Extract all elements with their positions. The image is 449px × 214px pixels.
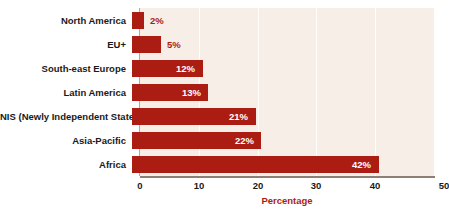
bar-track: 5% [132, 32, 448, 56]
bar-value-label: 22% [235, 135, 254, 146]
x-tick-10: 10 [194, 180, 205, 191]
table-row: EU+ 5% [0, 32, 448, 56]
category-label: EU+ [0, 39, 132, 50]
bar-africa[interactable] [132, 156, 379, 173]
category-label: Africa [0, 159, 132, 170]
bar-value-label: 12% [176, 63, 195, 74]
bar-track: 2% [132, 8, 448, 32]
x-tick-30: 30 [311, 180, 322, 191]
bar-track: 21% [132, 104, 448, 128]
table-row: Latin America 13% [0, 80, 448, 104]
x-axis-title: Percentage [261, 195, 312, 206]
table-row: North America 2% [0, 8, 448, 32]
bar-value-label: 42% [352, 159, 371, 170]
x-axis-line [140, 176, 435, 178]
bar-rows: North America 2% EU+ 5% South-east Europ… [0, 8, 448, 176]
bar-track: 12% [132, 56, 448, 80]
bar-value-label: 5% [167, 39, 181, 50]
x-tick-50: 50 [439, 180, 449, 191]
category-label: NIS (Newly Independent States) [0, 111, 132, 122]
table-row: Africa 42% [0, 152, 448, 176]
table-row: NIS (Newly Independent States) 21% [0, 104, 448, 128]
bar-track: 42% [132, 152, 448, 176]
category-label: South-east Europe [0, 63, 132, 74]
bar-value-label: 2% [150, 15, 164, 26]
bar-north-america[interactable] [132, 12, 144, 29]
table-row: Asia-Pacific 22% [0, 128, 448, 152]
bar-eu-plus[interactable] [132, 36, 161, 53]
bar-track: 13% [132, 80, 448, 104]
category-label: Asia-Pacific [0, 135, 132, 146]
x-tick-40: 40 [370, 180, 381, 191]
x-tick-0: 0 [137, 180, 142, 191]
x-axis-ticks: 0 10 20 30 40 50 [0, 180, 448, 194]
x-tick-20: 20 [253, 180, 264, 191]
bar-value-label: 13% [182, 87, 201, 98]
bar-track: 22% [132, 128, 448, 152]
category-label: North America [0, 15, 132, 26]
bar-value-label: 21% [229, 111, 248, 122]
category-label: Latin America [0, 87, 132, 98]
table-row: South-east Europe 12% [0, 56, 448, 80]
